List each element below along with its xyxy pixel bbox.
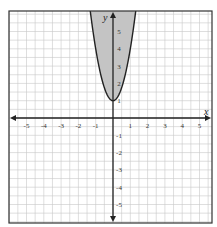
y-axis-label: y	[102, 12, 108, 23]
x-tick-label: -4	[41, 122, 47, 130]
y-tick-label: 1	[117, 97, 121, 105]
y-tick-label: 5	[117, 28, 121, 36]
x-tick-label: 3	[163, 122, 167, 130]
y-tick-label: 4	[117, 45, 121, 53]
y-tick-label: -5	[116, 201, 122, 209]
x-tick-label: 5	[198, 122, 202, 130]
x-tick-label: 2	[146, 122, 150, 130]
y-tick-label: -4	[116, 184, 122, 192]
y-tick-label: -3	[116, 166, 122, 174]
y-tick-label: -1	[116, 132, 122, 140]
y-tick-label: 2	[117, 80, 121, 88]
y-tick-label: -2	[116, 149, 122, 157]
x-tick-label: -2	[75, 122, 81, 130]
x-tick-label: -5	[24, 122, 30, 130]
x-axis-left-arrow-icon	[10, 115, 16, 121]
x-tick-label: 4	[180, 122, 184, 130]
coordinate-plane: -5-4-3-2-11234554321-1-2-3-4-5 x y	[0, 0, 217, 227]
x-axis-label: x	[203, 106, 209, 117]
y-axis-down-arrow-icon	[110, 216, 116, 222]
x-tick-label: -1	[93, 122, 99, 130]
x-tick-label: -3	[58, 122, 64, 130]
y-tick-label: 3	[117, 63, 121, 71]
x-tick-label: 1	[129, 122, 133, 130]
